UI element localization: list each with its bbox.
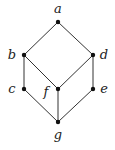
node-f <box>56 87 60 91</box>
node-b <box>22 53 26 57</box>
node-label-e: e <box>100 81 108 96</box>
edge-b-f <box>24 55 58 89</box>
edge-c-g <box>24 89 58 122</box>
edge-d-f <box>58 55 93 89</box>
hasse-diagram: abdcfeg <box>0 0 115 150</box>
node-g <box>56 120 60 124</box>
node-label-c: c <box>8 81 16 96</box>
edge-a-d <box>58 22 93 55</box>
node-label-f: f <box>43 84 51 99</box>
edge-a-b <box>24 22 58 55</box>
node-label-g: g <box>54 127 62 142</box>
node-d <box>91 53 95 57</box>
node-a <box>56 20 60 24</box>
node-label-a: a <box>54 1 62 16</box>
node-c <box>22 87 26 91</box>
node-e <box>91 87 95 91</box>
node-label-d: d <box>100 47 108 62</box>
edge-e-g <box>58 89 93 122</box>
node-label-b: b <box>8 47 16 62</box>
